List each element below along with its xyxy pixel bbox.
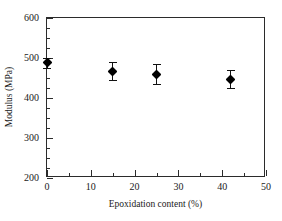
error-bar-cap-lower [43, 68, 51, 69]
y-axis-minor-tick [47, 48, 50, 49]
x-axis-title-label: Epoxidation content (%) [109, 199, 202, 209]
data-point-marker [226, 74, 236, 84]
y-axis-major-tick [47, 178, 53, 179]
y-axis-minor-tick [47, 28, 50, 29]
x-axis-tick-label: 30 [173, 182, 183, 192]
y-axis-minor-tick [47, 118, 50, 119]
y-axis-minor-tick [47, 108, 50, 109]
y-axis-minor-tick [47, 158, 50, 159]
x-axis-minor-tick [244, 173, 245, 176]
y-axis-tick-label: 300 [24, 133, 39, 143]
y-axis-minor-tick [47, 38, 50, 39]
x-axis-title: Epoxidation content (%) [46, 200, 265, 210]
chart-figure: Modulus (MPa) 200300400500600 0102030405… [0, 0, 282, 221]
x-axis-tick-label: 40 [217, 182, 227, 192]
y-axis-major-tick [47, 138, 53, 139]
y-axis-tick-label: 500 [24, 53, 39, 63]
x-axis-minor-tick [69, 173, 70, 176]
y-axis-minor-tick [47, 78, 50, 79]
error-bar-cap-lower [153, 84, 161, 85]
error-bar-cap-lower [109, 80, 117, 81]
plot-area: 200300400500600 01020304050 [46, 17, 265, 177]
y-axis-minor-tick [47, 88, 50, 89]
y-axis-title-label: Modulus (MPa) [4, 67, 14, 127]
y-axis-title: Modulus (MPa) [2, 17, 16, 177]
x-axis-tick-label: 10 [86, 182, 96, 192]
y-axis-major-tick [47, 98, 53, 99]
y-axis-minor-tick [47, 168, 50, 169]
x-axis-major-tick [91, 170, 92, 176]
x-axis-tick-label: 0 [45, 182, 50, 192]
data-point-marker [108, 66, 118, 76]
x-axis-minor-tick [157, 173, 158, 176]
y-axis-tick-label: 400 [24, 93, 39, 103]
data-point-marker [42, 58, 52, 68]
x-axis-major-tick [47, 170, 48, 176]
y-axis-minor-tick [47, 148, 50, 149]
y-axis-major-tick [47, 18, 53, 19]
error-bar-cap-upper [153, 64, 161, 65]
error-bar-cap-upper [227, 70, 235, 71]
x-axis-minor-tick [113, 173, 114, 176]
y-axis-minor-tick [47, 128, 50, 129]
x-axis-tick-label: 20 [130, 182, 140, 192]
x-axis-major-tick [266, 170, 267, 176]
x-axis-major-tick [135, 170, 136, 176]
y-axis-tick-label: 200 [24, 173, 39, 183]
error-bar-cap-lower [227, 88, 235, 89]
x-axis-tick-label: 50 [261, 182, 271, 192]
x-axis-major-tick [222, 170, 223, 176]
y-axis-tick-label: 600 [24, 13, 39, 23]
x-axis-major-tick [178, 170, 179, 176]
error-bar-cap-upper [109, 62, 117, 63]
data-point-marker [152, 69, 162, 79]
x-axis-minor-tick [200, 173, 201, 176]
